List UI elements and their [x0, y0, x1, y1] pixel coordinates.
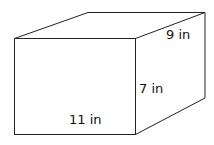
length-label: 11 in: [69, 112, 102, 127]
top-left-edge: [15, 13, 89, 39]
depth-label: 9 in: [166, 27, 190, 42]
bottom-right-edge: [136, 98, 206, 135]
prism-diagram: 9 in 7 in 11 in: [0, 0, 214, 145]
height-label: 7 in: [139, 81, 163, 96]
